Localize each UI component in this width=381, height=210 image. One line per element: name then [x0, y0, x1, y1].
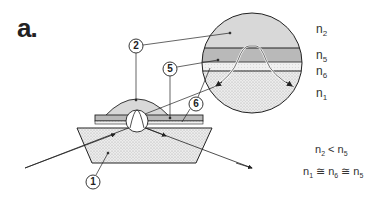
callout-2: 2 — [129, 39, 143, 53]
label-n6: n6 — [316, 64, 327, 80]
callout-6: 6 — [189, 97, 203, 111]
slide-layers — [95, 115, 203, 124]
label-n1: n1 — [316, 86, 327, 102]
callout-1: 1 — [86, 175, 100, 189]
equation-n2-less-n5: n2 < n5 — [315, 143, 348, 157]
magnified-view — [200, 10, 310, 116]
callout-5: 5 — [163, 62, 177, 76]
label-n5: n5 — [316, 48, 327, 64]
label-n2: n2 — [316, 22, 327, 38]
magnify-spot — [126, 110, 148, 132]
equation-n1-n6-n5: n1 ≅ n6 ≅ n5 — [303, 165, 363, 179]
